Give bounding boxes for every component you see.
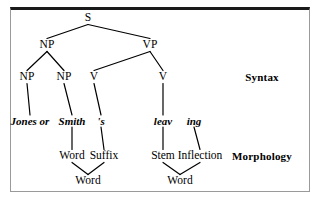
tier-label-syntax: Syntax: [245, 72, 279, 83]
tree-edge: [47, 52, 64, 71]
tree-edge: [88, 163, 104, 175]
tree-edge: [27, 52, 47, 71]
tier-label-morphology: Morphology: [232, 151, 292, 162]
tree-node-np-top: NP: [40, 39, 55, 51]
tree-node-word-2: Word: [75, 175, 100, 187]
tree-edge: [72, 163, 88, 175]
tree-edge: [94, 52, 150, 71]
tree-word-ing: ing: [187, 116, 202, 127]
tree-edge: [94, 84, 101, 116]
tree-node-v-right: V: [159, 71, 167, 83]
figure-container: S NP VP NP NP V V Jones or Smith 's leav…: [0, 0, 323, 206]
tree-node-word-3: Word: [167, 175, 192, 187]
tree-edge: [163, 163, 180, 175]
tree-edge: [180, 163, 200, 175]
tree-edges: [0, 0, 323, 206]
tree-node-np-left: NP: [20, 71, 35, 83]
tree-edge: [64, 84, 72, 116]
tree-node-suffix: Suffix: [90, 150, 119, 162]
tree-node-inflection: Inflection: [178, 150, 223, 162]
tree-word-smith: Smith: [59, 116, 86, 127]
tree-edge: [150, 52, 163, 71]
tree-node-word-1: Word: [59, 150, 84, 162]
tree-node-np-right: NP: [57, 71, 72, 83]
tree-edge: [101, 127, 104, 150]
tree-node-stem: Stem: [151, 150, 175, 162]
tree-word-jones-or: Jones or: [11, 116, 50, 127]
tree-node-vp: VP: [143, 39, 158, 51]
tree-node-v-left: V: [90, 71, 98, 83]
tree-edge: [88, 25, 150, 39]
tree-word-s: 's: [97, 116, 104, 127]
tree-node-s: S: [85, 12, 92, 24]
tree-edge: [194, 127, 200, 150]
tree-edge: [27, 84, 30, 116]
tree-word-leav: leav: [154, 116, 172, 127]
tree-edge: [47, 25, 88, 39]
